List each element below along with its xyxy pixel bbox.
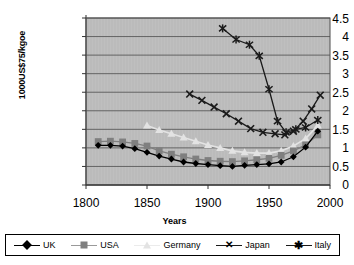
x-tick-label: 1950 (244, 196, 294, 210)
y-tick-label: 0.5 (271, 162, 349, 172)
y-tick-label: 2.5 (271, 88, 349, 98)
legend-item-uk[interactable]: UK (14, 240, 56, 250)
y-tick-label: 1.5 (271, 125, 349, 135)
y-tick-label: 2 (271, 106, 349, 116)
y-axis-label: 1000US$75/kgoe (17, 5, 27, 125)
legend-label: USA (100, 240, 119, 250)
y-tick-label: 1 (271, 143, 349, 153)
legend-label: Germany (163, 240, 200, 250)
cross-icon: ✕ (225, 241, 233, 249)
y-tick-label: 0 (271, 180, 349, 190)
x-tick-label: 2000 (305, 196, 354, 210)
x-tick-label: 1850 (122, 196, 172, 210)
legend-item-italy[interactable]: ✱ Italy (286, 240, 332, 250)
y-tick-label: 4 (271, 32, 349, 42)
x-tick-label: 1800 (61, 196, 111, 210)
diamond-icon (22, 240, 32, 250)
legend-swatch-usa (71, 240, 97, 250)
legend-swatch-uk (14, 240, 40, 250)
legend-label: Japan (245, 240, 270, 250)
legend-swatch-germany (134, 240, 160, 250)
x-tick-label: 1900 (183, 196, 233, 210)
legend-swatch-italy: ✱ (286, 240, 312, 250)
legend-swatch-japan: ✕ (216, 240, 242, 250)
x-axis-label: Years (0, 216, 349, 226)
legend-item-germany[interactable]: Germany (134, 240, 200, 250)
legend-item-usa[interactable]: USA (71, 240, 119, 250)
y-tick-label: 3.5 (271, 51, 349, 61)
y-tick-label: 3 (271, 69, 349, 79)
legend-item-japan[interactable]: ✕ Japan (216, 240, 270, 250)
chart-legend: UK USA Germany ✕ Japan (5, 234, 340, 256)
y-tick-label: 4.5 (271, 14, 349, 24)
star-icon: ✱ (294, 241, 303, 249)
legend-label: Italy (315, 240, 332, 250)
triangle-icon (143, 242, 151, 249)
square-icon (81, 242, 88, 249)
legend-label: UK (43, 240, 56, 250)
